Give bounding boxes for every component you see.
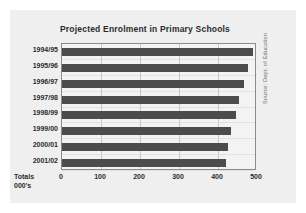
bar <box>62 159 226 167</box>
bar <box>62 143 228 151</box>
bar <box>62 64 248 72</box>
bar <box>62 111 236 119</box>
plot-area <box>61 43 256 170</box>
bar <box>62 80 244 88</box>
category-label: 1999/00 <box>12 125 58 132</box>
chart-title: Projected Enrolment in Primary Schools <box>10 24 280 34</box>
category-label: 2001/02 <box>12 157 58 164</box>
category-axis-labels: 1994/951995/961996/971997/981998/991999/… <box>10 43 58 170</box>
value-tick-label: 0 <box>59 173 63 180</box>
bar <box>62 48 253 56</box>
value-tick-label: 500 <box>250 173 262 180</box>
axis-caption-line1: Totals <box>14 172 58 181</box>
axis-caption: Totals 000's <box>14 172 58 190</box>
source-note: Source: Dept. of Education <box>262 33 268 104</box>
category-label: 1998/99 <box>12 109 58 116</box>
category-label: 1997/98 <box>12 94 58 101</box>
bar <box>62 96 239 104</box>
category-label: 2000/01 <box>12 141 58 148</box>
bar <box>62 127 231 135</box>
value-tick-label: 400 <box>211 173 223 180</box>
category-label: 1994/95 <box>12 46 58 53</box>
value-tick-label: 200 <box>133 173 145 180</box>
value-tick-label: 100 <box>94 173 106 180</box>
category-label: 1996/97 <box>12 78 58 85</box>
value-axis-ticks: 0100200300400500 <box>61 173 256 185</box>
value-tick-label: 300 <box>172 173 184 180</box>
chart-card: Projected Enrolment in Primary Schools 1… <box>10 10 296 203</box>
axis-caption-line2: 000's <box>14 181 58 190</box>
category-label: 1995/96 <box>12 62 58 69</box>
